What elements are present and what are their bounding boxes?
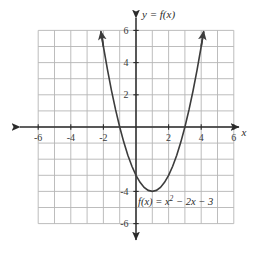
function-name-label: y = f(x) [141,8,175,21]
equation-label: f(x) = x2 − 2x − 3 [138,194,213,208]
y-tick-label: 4 [124,57,129,68]
equation-lhs: f(x) = x [138,196,170,208]
y-tick-label: -6 [120,218,128,229]
x-tick-label: 4 [199,132,204,143]
x-tick-label: -4 [67,132,75,143]
x-tick-label: -2 [99,132,107,143]
equation-rhs: − 2x − 3 [173,196,213,207]
y-tick-label: 6 [124,25,129,36]
x-tick-label: 2 [166,132,171,143]
coordinate-plane-svg: -6 -4 -2 2 4 6 6 4 2 -4 -6 y = f(x) x [0,0,256,253]
y-tick-label: -4 [120,186,128,197]
y-tick-label: 2 [124,89,129,100]
x-tick-label: 6 [231,132,236,143]
x-tick-labels: -6 -4 -2 2 4 6 [34,132,236,143]
parabola-curve-path [97,33,136,175]
graph-figure: -6 -4 -2 2 4 6 6 4 2 -4 -6 y = f(x) x [0,0,256,253]
x-tick-label: -6 [34,132,42,143]
x-axis-label: x [241,126,247,138]
